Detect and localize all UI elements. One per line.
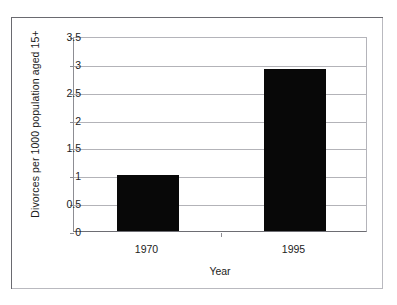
y-tick-label: 1 (29, 170, 81, 182)
x-tick-label: 1970 (135, 243, 158, 255)
y-tick-label: 1.5 (29, 142, 81, 154)
y-tick-label: 3 (29, 59, 81, 71)
gridline (74, 66, 366, 67)
bar-1995 (264, 69, 326, 231)
figure-border: Divorces per 1000 population aged 15+ 00… (11, 17, 383, 289)
y-tick-label: 2.5 (29, 87, 81, 99)
plot-area (73, 37, 367, 232)
chart-screenshot: { "chart_data": { "type": "bar", "title"… (0, 0, 397, 305)
bar-1970 (117, 175, 179, 231)
x-tick-label: 1995 (282, 243, 305, 255)
x-axis-title: Year (209, 265, 230, 277)
x-tick-mark (221, 233, 222, 237)
y-tick-label: 2 (29, 115, 81, 127)
bar-chart: Divorces per 1000 population aged 15+ 00… (12, 18, 384, 290)
y-tick-label: 0 (29, 226, 81, 238)
y-tick-label: 0.5 (29, 198, 81, 210)
y-tick-label: 3.5 (29, 31, 81, 43)
